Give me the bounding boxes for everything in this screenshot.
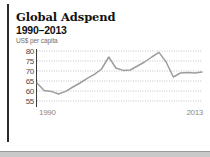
plot-area: 807570656055 19902013 [14,49,204,125]
y-axis-tick-label: 70 [26,67,35,76]
chart-subtitle: 1990–2013 [16,24,202,36]
chart-unit-label: US$ per capita [16,37,202,45]
y-axis-tick-labels: 807570656055 [26,49,35,106]
y-axis-tick-label: 75 [26,57,35,66]
bottom-band [0,152,210,157]
line-chart-svg: 807570656055 19902013 [14,49,204,125]
x-axis-tick-label: 2013 [186,108,203,117]
y-axis-tick-label: 80 [26,49,35,56]
x-axis-tick-labels: 19902013 [39,108,204,117]
chart-title: Global Adspend [16,11,202,23]
y-axis-tick-label: 55 [26,97,35,106]
y-axis-tick-label: 65 [26,77,35,86]
data-series-line [37,52,202,94]
x-axis-tick-label: 1990 [39,108,56,117]
left-edge-rule [7,4,9,142]
y-axis-tick-label: 60 [26,87,35,96]
chart-header: Global Adspend 1990–2013 US$ per capita [16,11,202,45]
chart-figure: Global Adspend 1990–2013 US$ per capita … [0,0,210,157]
